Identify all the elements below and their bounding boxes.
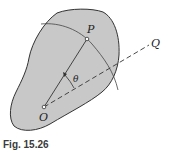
label-Q: Q [151,37,160,50]
figure-caption: Fig. 15.26 [3,139,49,150]
rigid-body-shape [10,9,119,130]
point-P-marker [85,37,89,41]
label-O: O [39,111,48,124]
point-O-marker [42,105,46,109]
figure-diagram: P O Q θ Fig. 15.26 [0,0,173,153]
label-theta: θ [73,74,79,84]
label-P: P [86,23,95,36]
